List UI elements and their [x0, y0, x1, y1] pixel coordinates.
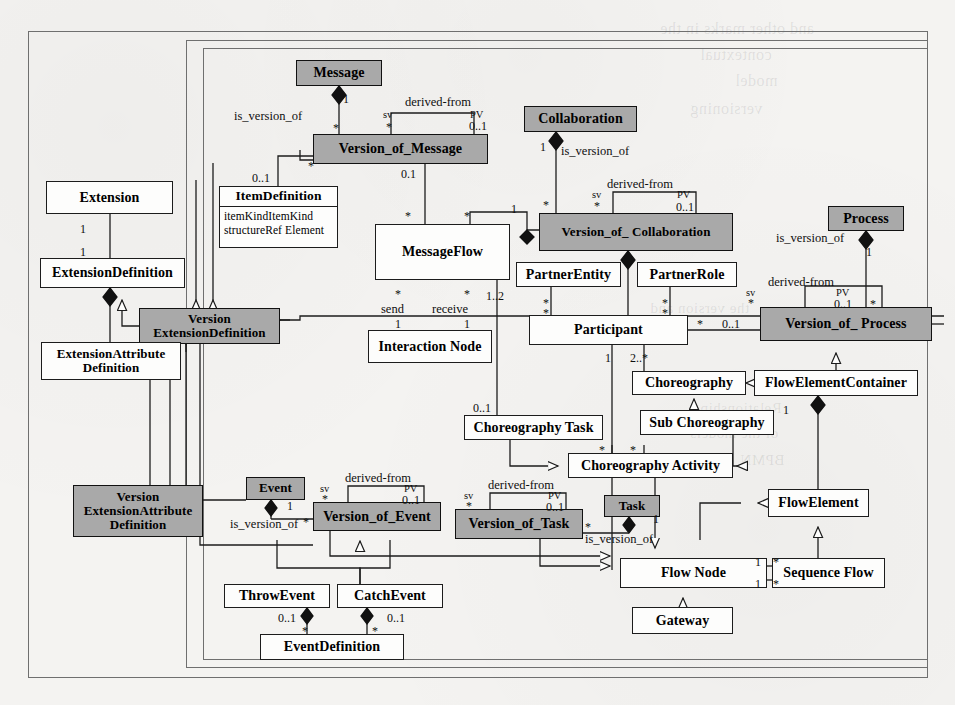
edge-label-l45: 0..1 — [722, 318, 740, 330]
edge-label-l36: * — [464, 288, 470, 300]
edge-label-l64: 0..1 — [546, 501, 564, 513]
edge-label-l7: * — [386, 121, 392, 133]
class-box-event_definition[interactable]: EventDefinition — [260, 634, 404, 660]
class-name-choreography_task: Choreography Task — [469, 419, 597, 436]
class-box-sequence_flow[interactable]: Sequence Flow — [772, 558, 885, 588]
class-name-message: Message — [309, 64, 368, 81]
edge-label-l52: is_version_of — [230, 518, 298, 531]
class-box-collaboration[interactable]: Collaboration — [524, 106, 637, 132]
edge-label-l53: 1 — [287, 500, 293, 512]
class-box-version_of_message[interactable]: Version_of_Message — [313, 134, 488, 164]
class-name-choreo_activity: Choreography Activity — [577, 457, 724, 474]
class-attributes-item_definition: itemKindItemKindstructureRef Element — [220, 207, 337, 239]
class-box-flow_elem_cont[interactable]: FlowElementContainer — [754, 370, 918, 396]
edge-label-l8: 0..1 — [469, 120, 487, 132]
edge-label-l49: 0..1 — [473, 402, 491, 414]
edge-label-l12: * — [405, 210, 411, 222]
class-name-sequence_flow: Sequence Flow — [779, 564, 877, 581]
edge-label-l21: 1 — [511, 203, 517, 215]
edge-label-l70: * — [302, 625, 308, 637]
class-name-partner_entity: PartnerEntity — [522, 266, 615, 283]
class-box-ext_attr_def[interactable]: ExtensionAttribute Definition — [41, 342, 181, 380]
edge-label-l33: send — [381, 303, 404, 316]
class-box-gateway[interactable]: Gateway — [632, 607, 733, 634]
class-name-flow_node: Flow Node — [657, 564, 730, 581]
class-name-process: Process — [839, 210, 893, 227]
class-name-version_ext_def: Version ExtensionDefinition — [149, 311, 269, 341]
edge-label-l5: sv — [383, 110, 392, 121]
class-box-version_of_process[interactable]: Version_of_ Process — [760, 307, 932, 341]
edge-label-l15: * — [543, 199, 549, 211]
edge-label-l28: * — [748, 297, 754, 309]
class-name-version_ext_attr: Version ExtensionAttribute Definition — [80, 489, 197, 533]
class-name-collaboration: Collaboration — [534, 110, 627, 127]
edge-label-l18: PV — [677, 190, 690, 201]
class-name-partner_role: PartnerRole — [646, 266, 729, 283]
edge-label-l38: 1 — [464, 318, 470, 330]
edge-label-l2: 1 — [343, 93, 349, 105]
edge-label-l14: 1 — [540, 141, 546, 153]
edge-label-l75: * — [773, 578, 779, 590]
edge-label-l23: is_version_of — [776, 232, 844, 245]
class-box-choreography_task[interactable]: Choreography Task — [464, 415, 603, 440]
edge-label-l60: derived-from — [488, 479, 554, 492]
class-box-message[interactable]: Message — [296, 60, 382, 86]
edge-label-l63: * — [466, 500, 472, 512]
edge-label-l43: * — [662, 307, 668, 319]
edge-label-l32: 1 — [80, 246, 86, 258]
edge-label-l71: * — [372, 625, 378, 637]
class-box-choreography[interactable]: Choreography — [632, 371, 746, 395]
class-name-ext_attr_def: ExtensionAttribute Definition — [53, 346, 170, 376]
class-box-version_of_collab[interactable]: Version_of_ Collaboration — [539, 213, 733, 251]
edge-label-l69: 0..1 — [387, 612, 405, 624]
class-name-extension_def: ExtensionDefinition — [48, 264, 177, 281]
class-name-event: Event — [255, 480, 296, 496]
class-name-version_of_message: Version_of_Message — [335, 140, 466, 157]
edge-label-l19: * — [594, 200, 600, 212]
edge-label-l37: 1 — [395, 318, 401, 330]
edge-label-l55: derived-from — [345, 472, 411, 485]
edge-label-l73: * — [773, 556, 779, 568]
class-box-process[interactable]: Process — [828, 206, 904, 231]
edge-label-l59: 0..1 — [402, 494, 420, 506]
class-box-throw_event[interactable]: ThrowEvent — [224, 584, 330, 608]
edge-label-l74: 1 — [755, 578, 761, 590]
class-box-partner_role[interactable]: PartnerRole — [637, 262, 737, 287]
edge-label-l22: * — [464, 210, 470, 222]
class-name-item_definition: ItemDefinition — [220, 187, 337, 207]
class-name-sub_choreography: Sub Choreography — [645, 414, 768, 431]
class-box-interaction_node[interactable]: Interaction Node — [368, 330, 492, 363]
edge-label-l51: * — [630, 444, 636, 456]
edge-label-l58: * — [322, 493, 328, 505]
class-box-catch_event[interactable]: CatchEvent — [337, 584, 443, 608]
edge-label-l54: * — [303, 516, 309, 528]
edge-label-l48: 1 — [783, 404, 789, 416]
class-box-version_ext_attr[interactable]: Version ExtensionAttribute Definition — [73, 485, 203, 537]
edge-label-l13: is_version_of — [561, 145, 629, 158]
class-attribute: itemKindItemKind — [224, 209, 333, 223]
class-name-event_definition: EventDefinition — [280, 638, 384, 655]
edge-label-l34: receive — [432, 303, 468, 316]
class-name-interaction_node: Interaction Node — [374, 338, 485, 355]
class-name-gateway: Gateway — [652, 612, 714, 629]
class-name-flow_elem_cont: FlowElementContainer — [761, 374, 911, 391]
class-box-version_ext_def[interactable]: Version ExtensionDefinition — [139, 308, 280, 344]
class-box-event[interactable]: Event — [246, 477, 305, 500]
class-box-choreo_activity[interactable]: Choreography Activity — [568, 453, 733, 478]
class-box-flow_element[interactable]: FlowElement — [768, 489, 869, 517]
edge-label-l44: * — [697, 318, 703, 330]
class-box-extension[interactable]: Extension — [46, 181, 173, 214]
class-box-sub_choreography[interactable]: Sub Choreography — [640, 410, 774, 435]
class-box-task[interactable]: Task — [604, 495, 660, 517]
class-box-extension_def[interactable]: ExtensionDefinition — [40, 258, 185, 288]
edge-label-l31: 1 — [80, 223, 86, 235]
class-name-choreography: Choreography — [641, 374, 737, 391]
edge-label-l47: 2..* — [630, 352, 648, 364]
class-box-item_definition[interactable]: ItemDefinitionitemKindItemKindstructureR… — [219, 186, 338, 248]
class-box-partner_entity[interactable]: PartnerEntity — [516, 262, 621, 287]
class-box-message_flow[interactable]: MessageFlow — [375, 224, 510, 280]
class-box-version_of_event[interactable]: Version_of_Event — [313, 502, 441, 531]
edge-label-l24: 1 — [866, 246, 872, 258]
class-box-flow_node[interactable]: Flow Node — [620, 558, 767, 588]
class-name-throw_event: ThrowEvent — [235, 587, 319, 604]
